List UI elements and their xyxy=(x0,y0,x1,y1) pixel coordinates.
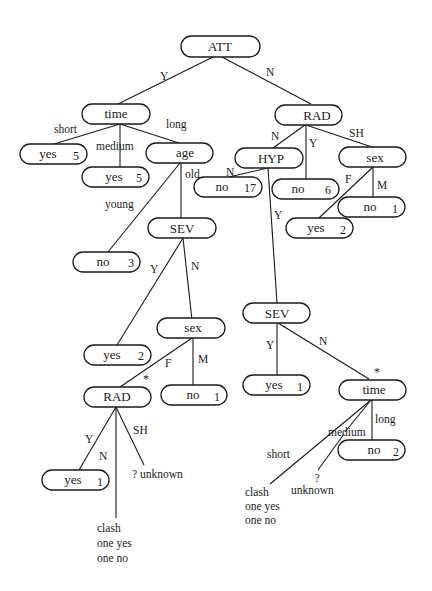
node-count: 1 xyxy=(214,390,220,404)
edge-label-age-old: old xyxy=(185,168,200,180)
node-label: yes xyxy=(103,347,120,362)
node-label: sex xyxy=(366,150,384,165)
edge-sev1-n xyxy=(183,238,192,320)
node-att: ATT xyxy=(181,36,260,57)
node-yes-sex2-f: yes 2 xyxy=(286,218,353,238)
node-yes-rad2: yes 1 xyxy=(42,470,109,490)
node-label: no xyxy=(216,179,229,194)
edge-label-rad2-y: Y xyxy=(85,433,94,445)
node-label: yes xyxy=(39,146,56,161)
time2-clash-line-1: clash xyxy=(245,486,269,498)
edge-att-n xyxy=(220,56,311,104)
node-count: 6 xyxy=(325,183,331,197)
node-count: 1 xyxy=(97,475,103,489)
node-count: 2 xyxy=(138,349,144,363)
rad2-clash-line-2: one yes xyxy=(97,537,132,550)
node-label: yes xyxy=(64,472,81,487)
time2-clash-line-2: one yes xyxy=(245,500,280,513)
node-count: 5 xyxy=(136,171,142,185)
edge-rad2-sh xyxy=(116,407,144,465)
edge-label-sev1-y: Y xyxy=(150,263,159,275)
edge-hyp-n xyxy=(229,168,268,177)
edge-label-age-young: young xyxy=(105,198,134,211)
node-sex1: sex xyxy=(157,318,225,338)
edge-label-sex2-m: M xyxy=(377,179,387,191)
rad2-clash-line-3: one no xyxy=(97,552,128,564)
node-label: RAD xyxy=(303,108,330,123)
node-label: sex xyxy=(184,320,202,335)
leaf-texts: ? unknown clash one yes one no ? unknown… xyxy=(97,468,334,564)
asterisk-marker: * xyxy=(374,365,380,379)
node-no-sex2-m: no 1 xyxy=(338,197,405,217)
node-label: yes xyxy=(105,169,122,184)
node-label: yes xyxy=(307,220,324,235)
node-label: time xyxy=(104,106,127,121)
node-label: time xyxy=(362,382,385,397)
node-label: RAD xyxy=(103,389,130,404)
node-yes-sev1: yes 2 xyxy=(84,345,151,365)
node-count: 2 xyxy=(393,445,399,459)
node-age: age xyxy=(146,143,213,163)
edge-label-rad2-n: N xyxy=(99,450,108,462)
edge-label-time2-short: short xyxy=(267,448,291,460)
edge-label-rad1-y: Y xyxy=(309,137,318,149)
node-label: no xyxy=(292,181,305,196)
edge-label-att-n: N xyxy=(266,66,275,78)
node-count: 3 xyxy=(128,256,134,270)
rad2-unknown-text: ? unknown xyxy=(132,468,183,480)
edge-label-rad2-sh: SH xyxy=(133,424,148,436)
node-yes-short: yes 5 xyxy=(20,144,87,164)
node-time1: time xyxy=(82,104,150,124)
edge-label-time1-long: long xyxy=(166,118,187,131)
edge-label-att-y: Y xyxy=(160,70,169,82)
edge-label-hyp-n: N xyxy=(226,166,235,178)
edge-label-rad1-sh: SH xyxy=(349,127,364,139)
edge-label-time1-medium: medium xyxy=(96,140,134,152)
node-label: SEV xyxy=(265,306,290,321)
node-time2: time * xyxy=(339,365,406,400)
node-label: no xyxy=(187,387,200,402)
node-count: 1 xyxy=(392,202,398,216)
node-count: 2 xyxy=(340,223,346,237)
node-count: 17 xyxy=(244,181,256,195)
edge-label-time2-medium: medium xyxy=(328,426,366,438)
edge-sev2-n xyxy=(278,323,369,379)
node-label: age xyxy=(176,145,194,160)
edge-label-sev1-n: N xyxy=(191,260,200,272)
edge-label-rad1-n: N xyxy=(271,130,280,142)
edge-label-hyp-y: Y xyxy=(274,209,283,221)
edge-label-sex1-f: F xyxy=(165,357,171,369)
node-sex2: sex xyxy=(339,147,406,167)
node-hyp: HYP xyxy=(235,148,303,168)
edge-label-time1-short: short xyxy=(54,123,78,135)
node-no-time2-long: no 2 xyxy=(338,440,405,460)
asterisk-marker: * xyxy=(143,372,149,386)
time2-clash-line-3: one no xyxy=(245,514,276,526)
node-yes-medium: yes 5 xyxy=(82,167,149,187)
edge-label-sex1-m: M xyxy=(198,353,208,365)
node-label: yes xyxy=(265,377,282,392)
node-label: no xyxy=(97,254,110,269)
edge-label-sev2-n: N xyxy=(319,335,328,347)
node-rad1: RAD xyxy=(275,105,342,125)
node-no-rad1-y: no 6 xyxy=(272,179,339,199)
edge-label-sex2-f: F xyxy=(345,173,351,185)
node-label: no xyxy=(368,442,381,457)
decision-tree-diagram: ATT time yes 5 yes 5 age no 3 SEV yes 2 … xyxy=(0,0,432,591)
node-no-hyp: no 17 xyxy=(194,177,262,197)
node-sev2: SEV xyxy=(243,303,310,323)
node-label: no xyxy=(364,199,377,214)
node-yes-sev2: yes 1 xyxy=(243,375,310,395)
node-label: ATT xyxy=(208,39,232,54)
time2-unknown-text: unknown xyxy=(291,484,334,496)
node-rad2: RAD * xyxy=(84,372,151,407)
edge-label-sev2-y: Y xyxy=(266,339,275,351)
node-count: 1 xyxy=(297,380,303,394)
node-no-sex1-m: no 1 xyxy=(161,385,227,405)
edge-label-time2-long: long xyxy=(375,413,396,426)
node-count: 5 xyxy=(73,149,79,163)
node-sev1: SEV xyxy=(148,218,216,238)
time2-unknown-question: ? xyxy=(314,472,319,484)
node-no-young: no 3 xyxy=(73,252,140,272)
node-label: SEV xyxy=(170,221,195,236)
